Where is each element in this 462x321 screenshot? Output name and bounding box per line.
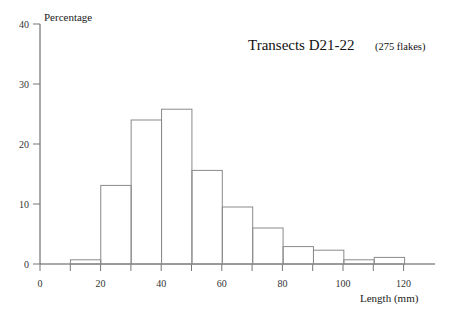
x-tick-label: 0 — [38, 278, 43, 289]
x-tick-label: 20 — [96, 278, 106, 289]
histogram-bar — [313, 250, 343, 264]
x-tick-label: 120 — [396, 278, 411, 289]
histogram-bar — [101, 185, 131, 264]
histogram-bar — [253, 228, 283, 264]
chart-title: Transects D21-22 — [248, 37, 355, 53]
histogram-bar — [222, 207, 252, 264]
histogram-chart: Transects D21-22 (275 flakes) Percentage… — [0, 0, 462, 321]
histogram-bars — [70, 109, 404, 264]
y-tick-label: 0 — [24, 259, 29, 270]
y-tick-label: 20 — [19, 139, 29, 150]
y-axis-ticks: 40 30 20 10 0 — [19, 19, 40, 270]
x-tick-label: 80 — [277, 278, 287, 289]
histogram-bar — [192, 170, 222, 264]
histogram-bar — [70, 260, 100, 264]
x-tick-label: 40 — [156, 278, 166, 289]
y-tick-label: 40 — [19, 19, 29, 30]
y-tick-label: 10 — [19, 199, 29, 210]
x-tick-label: 100 — [336, 278, 351, 289]
histogram-bar — [283, 247, 313, 264]
y-tick-label: 30 — [19, 79, 29, 90]
histogram-bar — [131, 120, 161, 264]
chart-subtitle: (275 flakes) — [375, 41, 426, 53]
histogram-bar — [162, 109, 192, 264]
histogram-bar — [344, 260, 374, 264]
x-axis-title: Length (mm) — [360, 292, 419, 305]
x-axis-ticks: 0 20 40 60 80 100 120 — [38, 264, 412, 289]
chart-canvas: Transects D21-22 (275 flakes) Percentage… — [0, 0, 462, 321]
x-tick-label: 60 — [217, 278, 227, 289]
y-axis-title: Percentage — [44, 11, 92, 23]
histogram-bar — [374, 257, 404, 264]
